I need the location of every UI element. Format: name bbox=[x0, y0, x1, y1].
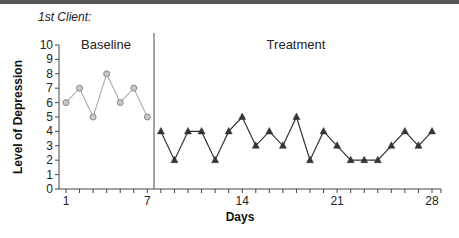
y-tick-label: 9 bbox=[46, 52, 53, 66]
data-point-triangle bbox=[239, 113, 246, 120]
data-point-circle bbox=[131, 85, 137, 91]
data-point-triangle bbox=[157, 127, 164, 133]
x-tick-label: 1 bbox=[63, 194, 70, 208]
x-axis-title: Days bbox=[226, 210, 255, 224]
data-point-triangle bbox=[293, 113, 300, 120]
single-case-design-chart: 01234567891017142128BaselineTreatmentDay… bbox=[0, 0, 459, 238]
y-tick-label: 5 bbox=[46, 110, 53, 124]
data-point-triangle bbox=[266, 127, 273, 133]
series-line-treatment bbox=[161, 117, 432, 160]
series-line-baseline bbox=[66, 74, 147, 117]
data-point-circle bbox=[77, 85, 83, 91]
data-point-triangle bbox=[212, 156, 219, 163]
y-tick-label: 0 bbox=[46, 182, 53, 196]
data-point-circle bbox=[117, 100, 123, 106]
data-point-triangle bbox=[198, 127, 205, 133]
y-tick-label: 6 bbox=[46, 96, 53, 110]
data-point-triangle bbox=[171, 156, 178, 163]
y-axis-title: Level of Depression bbox=[11, 60, 25, 174]
data-point-circle bbox=[144, 114, 150, 120]
y-tick-label: 1 bbox=[46, 168, 53, 182]
y-tick-label: 2 bbox=[46, 153, 53, 167]
data-point-triangle bbox=[401, 127, 408, 133]
data-point-circle bbox=[104, 71, 110, 77]
x-tick-label: 21 bbox=[330, 194, 344, 208]
data-point-triangle bbox=[361, 156, 368, 163]
data-point-triangle bbox=[185, 127, 192, 133]
data-point-triangle bbox=[320, 127, 327, 133]
data-point-circle bbox=[90, 114, 96, 120]
y-tick-label: 7 bbox=[46, 81, 53, 95]
phase-label-treatment: Treatment bbox=[267, 37, 326, 52]
y-tick-label: 8 bbox=[46, 67, 53, 81]
data-point-triangle bbox=[307, 156, 314, 163]
data-point-circle bbox=[63, 100, 69, 106]
y-tick-label: 10 bbox=[40, 38, 54, 52]
y-tick-label: 4 bbox=[46, 124, 53, 138]
x-tick-label: 14 bbox=[236, 194, 250, 208]
x-tick-label: 28 bbox=[425, 194, 439, 208]
phase-label-baseline: Baseline bbox=[81, 37, 131, 52]
x-tick-label: 7 bbox=[144, 194, 151, 208]
data-point-triangle bbox=[429, 127, 436, 133]
y-tick-label: 3 bbox=[46, 139, 53, 153]
